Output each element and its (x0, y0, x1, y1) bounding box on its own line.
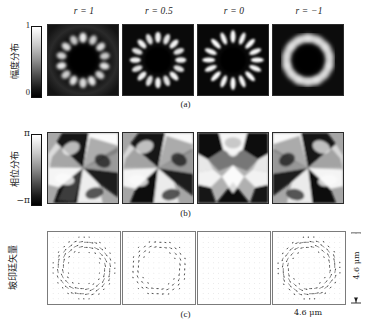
scalebar-vertical-label: 4.6 μm (352, 234, 361, 298)
poynting-panel-r0 (197, 231, 271, 305)
column-header-row: r = 1 r = 0.5 r = 0 r = −1 (47, 6, 343, 22)
colorbar-phase (31, 134, 42, 206)
amplitude-panel-r0 (197, 24, 269, 96)
poynting-panel-rm1 (272, 231, 346, 305)
amplitude-panel-rm1 (272, 24, 344, 96)
column-header-0: r = 1 (47, 6, 121, 16)
amplitude-panel-r05 (122, 24, 194, 96)
poynting-panel-r05 (122, 231, 196, 305)
caption-a: (a) (0, 99, 371, 109)
caption-b: (b) (0, 208, 371, 218)
colorbar-phase-max: π (14, 128, 30, 138)
column-header-2: r = 0 (197, 6, 271, 16)
column-header-3: r = −1 (272, 6, 346, 16)
phase-panel-rm1 (272, 132, 344, 204)
row-poynting: 坡印廷矢量 (0, 231, 371, 305)
phase-panel-r1 (47, 132, 119, 204)
amplitude-panel-r1 (47, 24, 119, 96)
phase-panel-r05 (122, 132, 194, 204)
scalebar-horizontal-label: 4.6 μm (272, 307, 344, 319)
colorbar-amplitude (31, 26, 42, 98)
figure-root: r = 1 r = 0.5 r = 0 r = −1 幅度分布 1 0 (0, 0, 371, 330)
colorbar-phase-min: −π (14, 195, 30, 205)
row-amplitude: 幅度分布 1 0 (0, 24, 371, 98)
phase-panel-r0 (197, 132, 269, 204)
poynting-panel-r1 (47, 231, 121, 305)
scalebar-vertical: 4.6 μm (345, 231, 367, 305)
colorbar-amplitude-min: 0 (14, 87, 30, 97)
column-header-1: r = 0.5 (122, 6, 196, 16)
ylabel-poynting: 坡印廷矢量 (7, 231, 20, 305)
scalebar-horizontal: 4.6 μm (272, 307, 344, 321)
colorbar-amplitude-max: 1 (14, 20, 30, 30)
row-phase: 相位分布 π −π (0, 132, 371, 206)
